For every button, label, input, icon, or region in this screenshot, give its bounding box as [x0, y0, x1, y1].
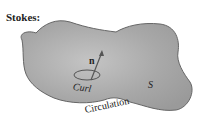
surface-label: S: [148, 79, 153, 90]
normal-label: n: [89, 55, 95, 66]
curl-label: Curl: [72, 81, 92, 94]
surface-region: [21, 21, 192, 111]
